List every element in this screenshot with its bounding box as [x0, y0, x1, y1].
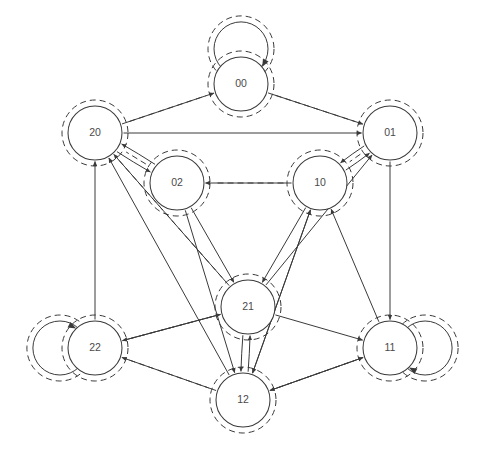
- node-11[interactable]: 11: [363, 321, 417, 375]
- node-label-00: 00: [235, 77, 247, 89]
- node-10[interactable]: 10: [293, 156, 347, 210]
- highlight-edge-02-20: [126, 152, 146, 164]
- node-label-01: 01: [384, 126, 396, 138]
- edge-02-to-20: [122, 144, 155, 164]
- edge-layer: [95, 93, 390, 391]
- edge-21-to-22: [123, 314, 221, 340]
- edge-11-to-12: [270, 358, 363, 391]
- edge-11-to-10: [331, 209, 379, 322]
- node-12[interactable]: 12: [216, 373, 270, 427]
- node-21[interactable]: 21: [221, 280, 275, 334]
- edge-12-to-22: [122, 357, 216, 390]
- node-label-22: 22: [89, 341, 101, 353]
- edge-12-to-21: [248, 336, 250, 372]
- graph-diagram: 002001021021221112: [0, 0, 483, 457]
- edge-20-to-02: [117, 152, 150, 172]
- node-label-12: 12: [237, 393, 249, 405]
- node-02[interactable]: 02: [150, 156, 204, 210]
- node-label-21: 21: [242, 300, 254, 312]
- edge-21-to-11: [275, 315, 362, 340]
- graph-canvas: 002001021021221112: [0, 0, 483, 457]
- edge-02-to-21: [191, 208, 234, 283]
- node-label-11: 11: [385, 341, 396, 353]
- node-label-20: 20: [89, 126, 101, 138]
- edge-21-to-12: [241, 335, 243, 371]
- node-00[interactable]: 00: [214, 57, 268, 111]
- node-20[interactable]: 20: [68, 106, 122, 160]
- edge-20-to-00: [122, 93, 214, 124]
- edge-00-to-01: [268, 93, 363, 124]
- node-22[interactable]: 22: [68, 321, 122, 375]
- node-label-10: 10: [314, 176, 326, 188]
- node-label-02: 02: [171, 176, 183, 188]
- node-01[interactable]: 01: [363, 106, 417, 160]
